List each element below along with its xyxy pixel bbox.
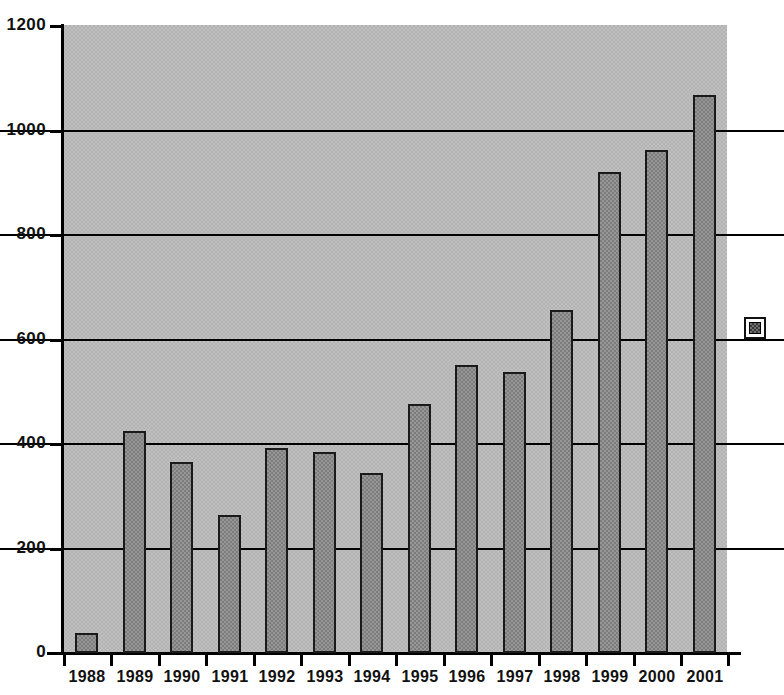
bar-1997[interactable] bbox=[503, 372, 526, 653]
bar-1995[interactable] bbox=[408, 404, 431, 653]
y-axis-label-200: 200 bbox=[16, 538, 46, 558]
bar-1998[interactable] bbox=[550, 310, 573, 653]
x-axis-label-1993: 1993 bbox=[300, 668, 350, 686]
x-axis-label-1990: 1990 bbox=[157, 668, 207, 686]
y-axis-label-1000: 1000 bbox=[7, 120, 46, 140]
x-tick-0 bbox=[63, 653, 66, 666]
x-tick-12 bbox=[633, 653, 636, 666]
x-axis-label-2001: 2001 bbox=[680, 668, 730, 686]
bar-1988[interactable] bbox=[75, 633, 98, 653]
x-tick-7 bbox=[395, 653, 398, 666]
x-tick-14 bbox=[727, 653, 730, 666]
x-axis-label-1998: 1998 bbox=[537, 668, 587, 686]
x-tick-10 bbox=[538, 653, 541, 666]
y-tick-400 bbox=[50, 443, 63, 446]
x-axis-label-1996: 1996 bbox=[442, 668, 492, 686]
x-axis-label-1988: 1988 bbox=[62, 668, 112, 686]
x-tick-5 bbox=[300, 653, 303, 666]
x-axis-label-2000: 2000 bbox=[632, 668, 682, 686]
x-tick-4 bbox=[253, 653, 256, 666]
legend-swatch[interactable] bbox=[744, 317, 766, 339]
legend-series-swatch-icon bbox=[749, 322, 761, 334]
x-tick-3 bbox=[205, 653, 208, 666]
x-axis-label-1989: 1989 bbox=[110, 668, 160, 686]
bar-2001[interactable] bbox=[693, 95, 716, 653]
y-axis-label-1200: 1200 bbox=[7, 15, 46, 35]
y-tick-1000 bbox=[50, 130, 63, 133]
y-axis-label-600: 600 bbox=[16, 329, 46, 349]
x-axis-label-1991: 1991 bbox=[205, 668, 255, 686]
x-tick-1 bbox=[110, 653, 113, 666]
x-axis-label-1994: 1994 bbox=[347, 668, 397, 686]
x-tick-13 bbox=[680, 653, 683, 666]
y-tick-800 bbox=[50, 234, 63, 237]
bar-1994[interactable] bbox=[360, 473, 383, 653]
x-axis-label-1999: 1999 bbox=[585, 668, 635, 686]
x-axis-label-1995: 1995 bbox=[395, 668, 445, 686]
x-tick-9 bbox=[490, 653, 493, 666]
x-axis-label-1992: 1992 bbox=[252, 668, 302, 686]
x-tick-2 bbox=[158, 653, 161, 666]
bar-1989[interactable] bbox=[123, 431, 146, 653]
y-tick-1200 bbox=[50, 25, 63, 28]
y-axis-label-0: 0 bbox=[36, 642, 46, 662]
y-axis-label-400: 400 bbox=[16, 433, 46, 453]
y-axis-label-800: 800 bbox=[16, 224, 46, 244]
x-tick-6 bbox=[348, 653, 351, 666]
bar-1992[interactable] bbox=[265, 448, 288, 653]
bar-1993[interactable] bbox=[313, 452, 336, 653]
bar-1991[interactable] bbox=[218, 515, 241, 653]
x-tick-8 bbox=[443, 653, 446, 666]
x-axis-label-1997: 1997 bbox=[490, 668, 540, 686]
x-axis-line bbox=[47, 652, 741, 655]
y-tick-0 bbox=[50, 652, 63, 655]
y-tick-600 bbox=[50, 339, 63, 342]
bar-chart: 1200 1000 800 600 400 200 0 1988 1989 19… bbox=[0, 0, 784, 695]
bar-1999[interactable] bbox=[598, 172, 621, 653]
y-tick-200 bbox=[50, 548, 63, 551]
bar-2000[interactable] bbox=[645, 150, 668, 653]
x-tick-11 bbox=[585, 653, 588, 666]
bar-1990[interactable] bbox=[170, 462, 193, 653]
bar-1996[interactable] bbox=[455, 365, 478, 653]
gridline-1000 bbox=[0, 130, 784, 132]
